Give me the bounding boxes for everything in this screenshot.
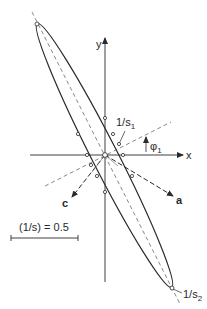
y-axis-label: y bbox=[96, 38, 102, 50]
minor-axis-dashed-line bbox=[45, 122, 171, 186]
s2-leader bbox=[173, 289, 182, 293]
s1-label: 1/s1 bbox=[116, 116, 136, 131]
s1-leader bbox=[119, 131, 125, 144]
c-axis-label: c bbox=[62, 197, 68, 209]
a-axis-label: a bbox=[176, 194, 183, 206]
phi-label: φ1 bbox=[150, 140, 162, 155]
scale-bar bbox=[11, 235, 78, 241]
point-markers bbox=[35, 22, 174, 290]
s2-label: 1/s2 bbox=[183, 288, 203, 303]
scale-label: (1/s) = 0.5 bbox=[19, 221, 69, 233]
major-axis-dashed-line bbox=[32, 12, 180, 304]
strain-ellipse-diagram: y x a c φ1 1/s1 1/s2 (1/s) = 0.5 bbox=[0, 0, 207, 309]
x-axis-label: x bbox=[186, 149, 192, 161]
